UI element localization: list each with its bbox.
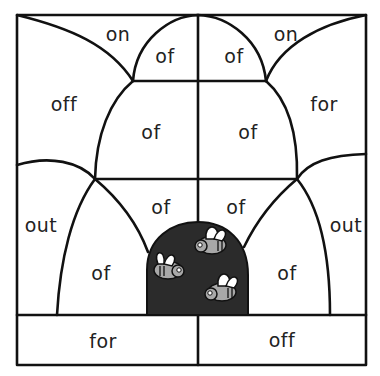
region-word-bottom-right-off: off — [269, 331, 296, 350]
region-word-lower-right-of: of — [277, 264, 296, 283]
top-dome — [133, 15, 266, 81]
region-word-top-dome-left-of: of — [155, 47, 174, 66]
region-word-middle-right-of: of — [238, 123, 257, 142]
region-word-left-out: out — [25, 216, 58, 235]
region-word-top-left-on: on — [106, 25, 131, 44]
right-body-arc — [266, 81, 297, 179]
region-word-middle-left-of: of — [141, 123, 160, 142]
region-word-top-right-on: on — [274, 25, 299, 44]
right-side-arc — [297, 154, 366, 179]
beehive-word-puzzle: onofofonoffofofforofofoutoutofofforoff — [0, 0, 380, 376]
left-arch — [57, 179, 148, 315]
puzzle-outline — [0, 0, 380, 376]
region-word-left-off: off — [51, 95, 78, 114]
left-body-arc — [95, 81, 133, 179]
right-arch — [244, 179, 330, 315]
region-word-lower-left-of: of — [91, 264, 110, 283]
region-word-lower-center-left-of: of — [151, 198, 170, 217]
region-word-top-dome-right-of: of — [224, 47, 243, 66]
region-word-right-for: for — [310, 95, 338, 114]
region-word-bottom-left-for: for — [89, 332, 117, 351]
region-word-right-out: out — [330, 216, 363, 235]
region-word-lower-center-right-of: of — [226, 198, 245, 217]
left-side-arc — [17, 160, 95, 179]
